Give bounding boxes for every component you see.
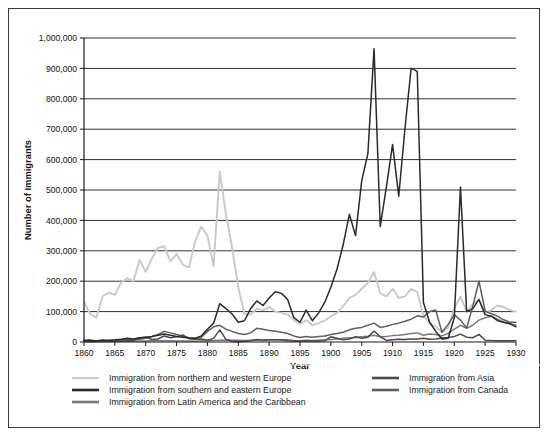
legend-label: Immigration from Canada	[409, 385, 508, 395]
x-tick-label: 1905	[352, 348, 371, 358]
x-axis-labels: 1860186518701875188018851890189519001905…	[74, 348, 525, 358]
x-tick-label: 1900	[321, 348, 340, 358]
immigration-line-chart: 0100,000200,000300,000400,000500,000600,…	[9, 9, 541, 429]
y-tick-label: 100,000	[46, 307, 77, 317]
x-tick-label: 1875	[167, 348, 186, 358]
legend: Immigration from northern and western Eu…	[72, 373, 508, 407]
x-tick-label: 1920	[445, 348, 464, 358]
x-tick-label: 1860	[74, 348, 93, 358]
y-axis-labels: 0100,000200,000300,000400,000500,000600,…	[39, 33, 77, 347]
y-tick-label: 500,000	[46, 185, 77, 195]
y-tick-label: 1,000,000	[39, 33, 77, 43]
chart-frame: 0100,000200,000300,000400,000500,000600,…	[8, 8, 540, 428]
y-tick-label: 0	[72, 337, 77, 347]
grid-lines	[84, 38, 516, 312]
x-tick-label: 1930	[506, 348, 525, 358]
series-line	[84, 172, 516, 333]
x-tick-label: 1865	[105, 348, 124, 358]
y-axis-title: Number of Immigrants	[22, 140, 33, 240]
legend-label: Immigration from southern and eastern Eu…	[109, 385, 291, 395]
x-tick-label: 1925	[476, 348, 495, 358]
y-tick-label: 300,000	[46, 246, 77, 256]
y-tick-label: 200,000	[46, 276, 77, 286]
y-tick-label: 800,000	[46, 94, 77, 104]
x-tick-label: 1910	[383, 348, 402, 358]
x-tick-label: 1890	[260, 348, 279, 358]
legend-label: Immigration from Latin America and the C…	[109, 397, 306, 407]
y-tick-label: 700,000	[46, 124, 77, 134]
y-tick-label: 600,000	[46, 155, 77, 165]
legend-label: Immigration from northern and western Eu…	[109, 373, 291, 383]
y-tick-label: 900,000	[46, 64, 77, 74]
x-tick-label: 1915	[414, 348, 433, 358]
x-tick-label: 1895	[290, 348, 309, 358]
x-tick-label: 1870	[136, 348, 155, 358]
y-tick-label: 400,000	[46, 216, 77, 226]
data-series	[84, 49, 516, 342]
legend-label: Immigration from Asia	[409, 373, 494, 383]
x-tick-label: 1880	[198, 348, 217, 358]
chart-svg: 0100,000200,000300,000400,000500,000600,…	[9, 9, 541, 429]
series-line	[84, 49, 516, 341]
x-tick-label: 1885	[229, 348, 248, 358]
